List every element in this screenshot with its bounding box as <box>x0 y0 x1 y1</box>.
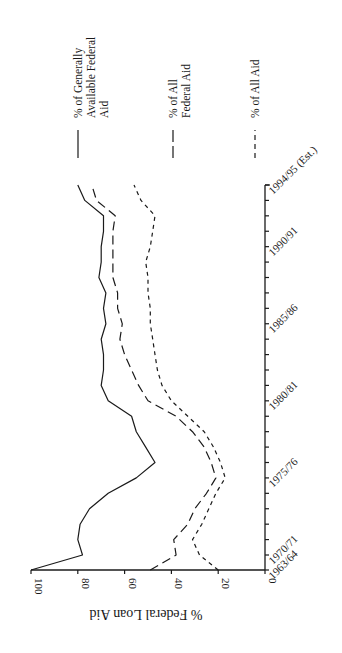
time-tick-label: 1985/86 <box>266 301 300 335</box>
axis-title-text: % Federal Loan Aid <box>89 607 202 622</box>
legend-label: Federal Aid <box>180 64 192 118</box>
time-axis: 1963/641970/711975/761980/811985/861990/… <box>265 143 320 581</box>
series-line-solid <box>31 185 155 570</box>
time-tick-label: 1975/76 <box>266 455 300 489</box>
value-tick-label: 80 <box>80 578 92 590</box>
value-tick-label: 60 <box>127 578 139 590</box>
value-tick-label: 20 <box>220 578 232 590</box>
rotated-line-chart: % of GenerallyAvailable FederalAid% of A… <box>0 0 342 653</box>
series-line-short-dash <box>134 185 225 570</box>
time-tick-label: 1980/81 <box>266 378 300 412</box>
legend-label: % of All Aid <box>249 59 261 118</box>
value-tick-label: 40 <box>173 578 185 590</box>
series-lines <box>31 185 225 570</box>
legend: % of GenerallyAvailable FederalAid% of A… <box>72 37 261 158</box>
time-tick-label: 1990/91 <box>266 224 300 258</box>
legend-label: Available Federal <box>85 37 97 118</box>
series-line-long-dash <box>92 185 216 570</box>
value-axis-title: % Federal Loan Aid <box>89 607 202 622</box>
legend-label: Aid <box>98 101 110 119</box>
value-tick-label: 100 <box>33 578 45 595</box>
legend-label: % of All <box>167 79 179 118</box>
time-tick-label: 1994/95 (Est.) <box>266 143 320 197</box>
value-axis: 020406080100 <box>31 570 279 595</box>
legend-label: % of Generally <box>72 48 85 118</box>
